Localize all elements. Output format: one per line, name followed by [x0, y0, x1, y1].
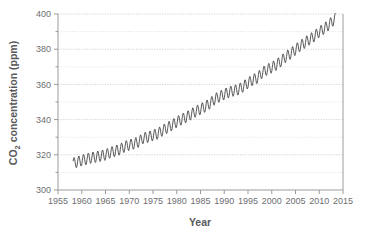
y-tick-label-360: 360 [36, 80, 51, 90]
x-tick-label-1995: 1995 [238, 196, 258, 206]
x-tick-label-1960: 1960 [72, 196, 92, 206]
x-tick-label-1990: 1990 [214, 196, 234, 206]
x-tick-label-1965: 1965 [95, 196, 115, 206]
chart-canvas: 1955196019651970197519801985199019952000… [0, 0, 366, 237]
y-tick-label-340: 340 [36, 115, 51, 125]
x-tick-label-2015: 2015 [333, 196, 353, 206]
y-tick-label-320: 320 [36, 150, 51, 160]
x-tick-label-1970: 1970 [119, 196, 139, 206]
x-axis-label: Year [189, 216, 211, 228]
y-tick-label-380: 380 [36, 44, 51, 54]
co2-chart-figure: 1955196019651970197519801985199019952000… [0, 0, 366, 237]
x-tick-label-1985: 1985 [190, 196, 210, 206]
y-tick-label-400: 400 [36, 9, 51, 19]
x-tick-label-1975: 1975 [143, 196, 163, 206]
x-tick-label-1955: 1955 [48, 196, 68, 206]
y-tick-label-300: 300 [36, 185, 51, 195]
x-tick-label-2010: 2010 [309, 196, 329, 206]
x-tick-label-2000: 2000 [262, 196, 282, 206]
x-tick-label-2005: 2005 [285, 196, 305, 206]
x-tick-label-1980: 1980 [167, 196, 187, 206]
